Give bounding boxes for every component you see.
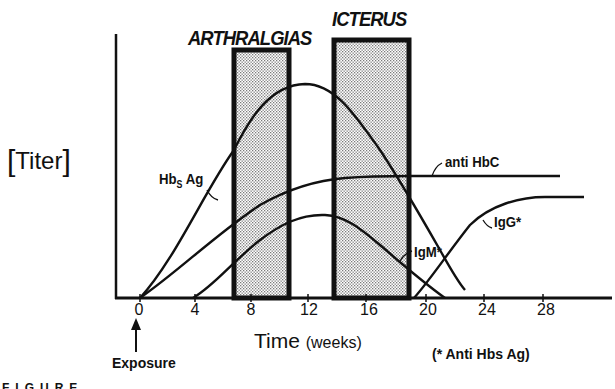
anti-hbc-label: anti HbC: [445, 153, 499, 170]
x-axis-label-text: Time: [254, 329, 300, 352]
icterus-label: ICTERUS: [332, 8, 406, 31]
igm-label: IgM*: [414, 243, 442, 260]
x-tick-label: 16: [354, 301, 384, 319]
x-tick-label: 8: [236, 301, 266, 319]
hbsag-label: HbS Ag: [159, 170, 203, 190]
igg-leader: [483, 220, 492, 228]
hbsag-label-main: Hb: [159, 170, 177, 187]
anti-hbc-leader: [432, 163, 442, 176]
cut-off-caption: FIGURE: [2, 381, 83, 389]
x-tick-label: 4: [180, 301, 210, 319]
y-axis-label: [Titer]: [7, 144, 71, 178]
hbsag-curve: [140, 84, 465, 298]
x-tick-label: 12: [294, 301, 324, 319]
exposure-label: Exposure: [112, 355, 176, 371]
x-tick-label: 0: [124, 301, 154, 319]
ylabel-bracket-close: ]: [62, 144, 70, 177]
x-tick-label: 28: [531, 301, 561, 319]
x-tick-label: 24: [472, 301, 502, 319]
ylabel-text: Titer: [15, 147, 62, 174]
footnote-label: (* Anti Hbs Ag): [432, 346, 530, 362]
x-axis-units: (weeks): [306, 334, 362, 351]
x-axis-label: Time (weeks): [254, 329, 362, 353]
exposure-arrow-icon: [131, 318, 141, 352]
igg-label: IgG*: [494, 213, 521, 230]
x-tick-label: 20: [413, 301, 443, 319]
hbsag-label-rest: Ag: [182, 170, 203, 187]
arthralgias-label: ARTHRALGIAS: [188, 27, 311, 50]
arthralgias-region: [234, 50, 289, 298]
